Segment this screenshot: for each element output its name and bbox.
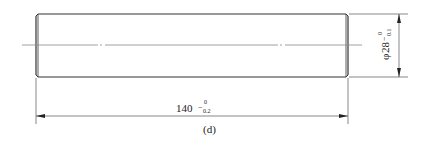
arrow-down-icon: [397, 68, 401, 77]
shaft-drawing: 140 − 0 0.2 φ 28 − 0 0.1 (d): [0, 0, 429, 144]
diameter-nominal: 28: [379, 42, 391, 54]
diameter-text: φ: [379, 54, 391, 60]
arrow-right-icon: [339, 114, 348, 118]
diameter-lower-tol: 0.1: [386, 29, 392, 37]
shaft-body: [36, 14, 348, 77]
arrow-up-icon: [397, 14, 401, 23]
length-upper-tol: 0: [204, 99, 207, 105]
figure-label: (d): [203, 123, 216, 136]
diameter-dimension: φ 28 − 0 0.1: [349, 14, 408, 77]
length-dimension: 140 − 0 0.2: [36, 78, 348, 124]
length-nominal: 140: [176, 102, 193, 114]
arrow-left-icon: [36, 114, 45, 118]
diameter-upper-tol: 0: [377, 32, 383, 35]
length-lower-tol: 0.2: [203, 108, 211, 114]
